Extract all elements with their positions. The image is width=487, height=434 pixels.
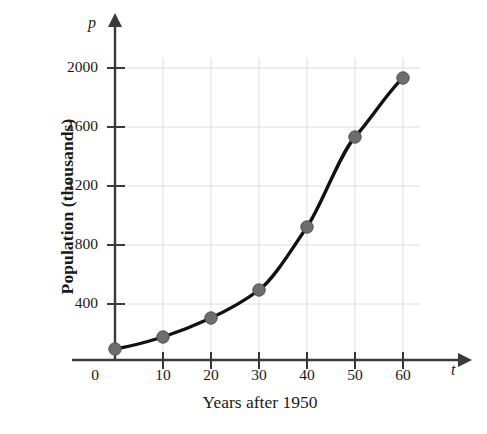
- x-tick-label-20: 20: [191, 366, 231, 384]
- x-tick-label-60: 60: [383, 366, 423, 384]
- population-growth-chart: 2000 1600 1200 800 400 0 10 20 30 40 50 …: [0, 0, 487, 434]
- gridlines: [115, 58, 420, 360]
- y-axis-variable-symbol: p: [88, 14, 96, 32]
- data-point: [397, 72, 409, 84]
- data-point: [109, 343, 121, 355]
- y-tick-label-2000: 2000: [34, 58, 98, 76]
- data-point: [205, 312, 217, 324]
- x-axis-title: Years after 1950: [115, 392, 405, 413]
- x-tick-label-30: 30: [239, 366, 279, 384]
- x-tick-label-40: 40: [287, 366, 327, 384]
- y-axis-title: Population (thousands): [57, 77, 78, 337]
- data-point: [301, 221, 313, 233]
- x-tick-label-10: 10: [143, 366, 183, 384]
- x-tick-label-50: 50: [335, 366, 375, 384]
- data-point: [349, 131, 361, 143]
- x-tick-label-0: 0: [75, 366, 115, 384]
- x-axis-variable-symbol: t: [451, 361, 455, 379]
- data-point: [253, 284, 265, 296]
- data-point: [157, 331, 169, 343]
